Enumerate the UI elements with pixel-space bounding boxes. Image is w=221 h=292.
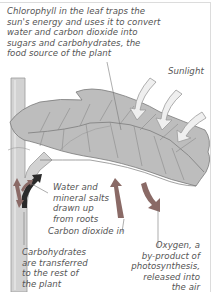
sunlight-label: Sunlight	[168, 66, 204, 77]
water-label: Water and mineral salts drawn up from ro…	[53, 182, 109, 224]
oxygen-arrow-icon	[141, 182, 160, 212]
carbon-dioxide-arrow-icon	[110, 178, 124, 218]
chlorophyll-label: Chlorophyll in the leaf traps the sun's …	[7, 6, 160, 59]
carbohydrates-label: Carbohydrates are transferred to the res…	[22, 247, 88, 289]
oxygen-label: Oxygen, a by-product of photosynthesis, …	[131, 240, 200, 292]
carbon-dioxide-label: Carbon dioxide in	[48, 226, 124, 237]
